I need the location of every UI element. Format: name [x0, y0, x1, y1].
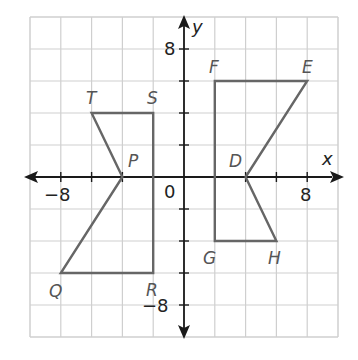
x-axis-label: x [321, 148, 333, 169]
x-tick-label-pos8: 8 [300, 184, 311, 205]
polygon-PQRST [61, 113, 153, 273]
point-label-Q: Q [49, 281, 62, 301]
point-label-D: D [229, 151, 242, 171]
point-label-H: H [268, 248, 281, 268]
point-label-F: F [209, 57, 219, 77]
point-label-T: T [86, 88, 98, 108]
point-label-P: P [128, 151, 139, 171]
axes [24, 15, 344, 339]
y-tick-label-pos8: 8 [164, 38, 175, 59]
coordinate-plane: x y 0 −8 8 8 −8 T S P Q R F E D G H [0, 0, 358, 360]
point-label-E: E [302, 57, 313, 77]
point-label-R: R [146, 280, 158, 300]
x-tick-label-neg8: −8 [44, 184, 71, 205]
point-label-S: S [147, 88, 158, 108]
origin-label: 0 [164, 181, 175, 202]
y-axis-label: y [191, 16, 203, 37]
point-label-G: G [203, 248, 216, 268]
